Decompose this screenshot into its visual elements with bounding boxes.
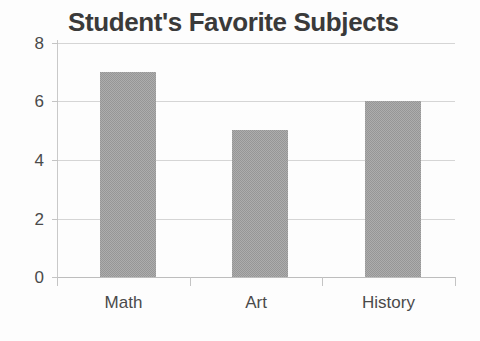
x-axis-label-history: History xyxy=(322,293,455,313)
bar-chart: Student's Favorite Subjects 8 6 4 2 0 Ma… xyxy=(0,0,480,341)
x-axis-label-art: Art xyxy=(190,293,322,313)
bar-art xyxy=(232,130,288,277)
y-tick-mark-2 xyxy=(52,219,58,220)
bar-math xyxy=(100,72,156,277)
bar-history xyxy=(365,101,421,277)
x-tick-mark-start xyxy=(57,277,58,286)
y-axis-label-0: 0 xyxy=(14,269,44,286)
y-tick-mark-8 xyxy=(52,43,58,44)
y-tick-mark-6 xyxy=(52,101,58,102)
x-axis-line xyxy=(57,277,455,278)
plot-area xyxy=(57,43,455,277)
y-axis-label-2: 2 xyxy=(14,211,44,228)
y-tick-mark-4 xyxy=(52,160,58,161)
y-axis-line xyxy=(57,40,58,284)
y-axis-label-4: 4 xyxy=(14,152,44,169)
y-axis-label-8: 8 xyxy=(14,35,44,52)
chart-title: Student's Favorite Subjects xyxy=(68,6,468,40)
x-tick-mark-end xyxy=(455,277,456,286)
x-axis-label-math: Math xyxy=(57,293,190,313)
gridline-8 xyxy=(57,43,455,44)
x-tick-mark-2 xyxy=(322,277,323,286)
y-axis-label-6: 6 xyxy=(14,93,44,110)
x-tick-mark-1 xyxy=(190,277,191,286)
